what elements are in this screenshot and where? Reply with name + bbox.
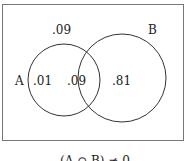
set-a-label: A [14, 74, 24, 88]
intersection-value: .09 [67, 74, 86, 88]
a-only-value: .01 [33, 74, 52, 88]
caption: (A ∩ B) ≠ 0 [60, 154, 130, 161]
b-only-value: .81 [112, 74, 131, 88]
set-b-label: B [148, 23, 157, 37]
venn-diagram: .09 B A .01 .09 .81 (A ∩ B) ≠ 0 [0, 0, 187, 161]
outside-value: .09 [52, 23, 71, 37]
